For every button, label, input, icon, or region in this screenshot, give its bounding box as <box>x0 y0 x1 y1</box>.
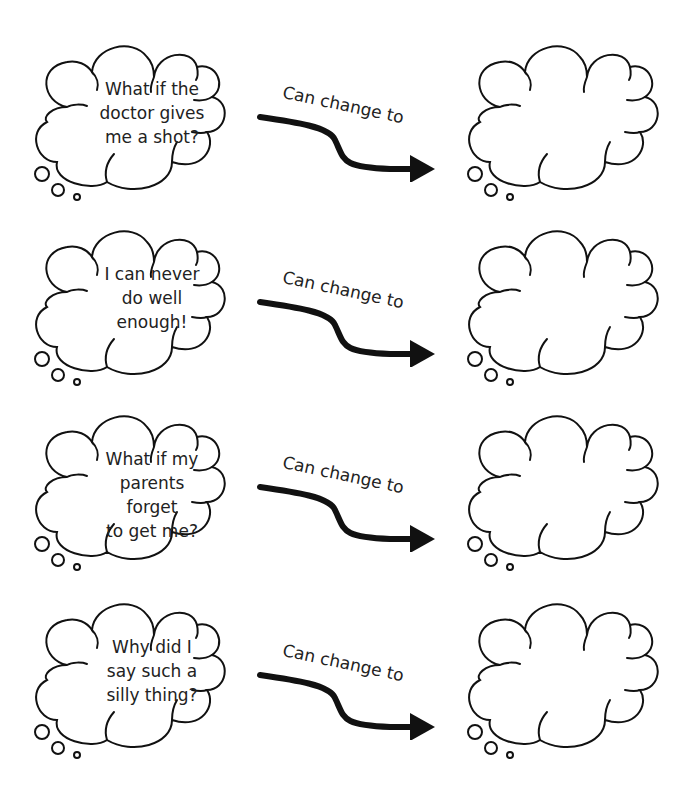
thought-line: do well enough! <box>92 286 212 334</box>
negative-thought-cloud: I can neverdo well enough! <box>22 217 237 392</box>
thought-line: I can never <box>92 262 212 286</box>
replacement-thought-cloud[interactable] <box>455 217 670 392</box>
change-arrow: Can change to <box>250 72 450 182</box>
negative-thought-cloud: What if thedoctor givesme a shot? <box>22 32 237 207</box>
negative-thought-text: What if myparents forgetto get me? <box>92 447 212 543</box>
thought-line: What if my <box>92 447 212 471</box>
negative-thought-text: Why did Isay such asilly thing? <box>92 635 212 707</box>
worksheet-row: Why did Isay such asilly thing? Can chan… <box>0 590 696 775</box>
thought-line: parents forget <box>92 471 212 519</box>
thought-line: say such a <box>92 659 212 683</box>
thought-cloud-icon <box>455 217 670 392</box>
change-arrow: Can change to <box>250 630 450 740</box>
negative-thought-cloud: What if myparents forgetto get me? <box>22 402 237 577</box>
replacement-thought-cloud[interactable] <box>455 590 670 765</box>
worksheet-row: What if thedoctor givesme a shot? Can ch… <box>0 32 696 217</box>
change-arrow: Can change to <box>250 442 450 552</box>
thought-cloud-icon <box>455 402 670 577</box>
thought-line: What if the <box>92 77 212 101</box>
thought-cloud-icon <box>455 590 670 765</box>
thought-cloud-icon <box>455 32 670 207</box>
change-arrow: Can change to <box>250 257 450 367</box>
negative-thought-cloud: Why did Isay such asilly thing? <box>22 590 237 765</box>
negative-thought-text: I can neverdo well enough! <box>92 262 212 334</box>
thought-line: doctor gives <box>92 101 212 125</box>
wavy-arrow-icon <box>250 257 450 367</box>
wavy-arrow-icon <box>250 630 450 740</box>
replacement-thought-cloud[interactable] <box>455 402 670 577</box>
negative-thought-text: What if thedoctor givesme a shot? <box>92 77 212 149</box>
wavy-arrow-icon <box>250 72 450 182</box>
worksheet-row: What if myparents forgetto get me? Can c… <box>0 402 696 587</box>
thought-line: silly thing? <box>92 683 212 707</box>
thought-line: to get me? <box>92 519 212 543</box>
replacement-thought-cloud[interactable] <box>455 32 670 207</box>
wavy-arrow-icon <box>250 442 450 552</box>
worksheet-row: I can neverdo well enough! Can change to <box>0 217 696 402</box>
thought-line: me a shot? <box>92 125 212 149</box>
thought-line: Why did I <box>92 635 212 659</box>
